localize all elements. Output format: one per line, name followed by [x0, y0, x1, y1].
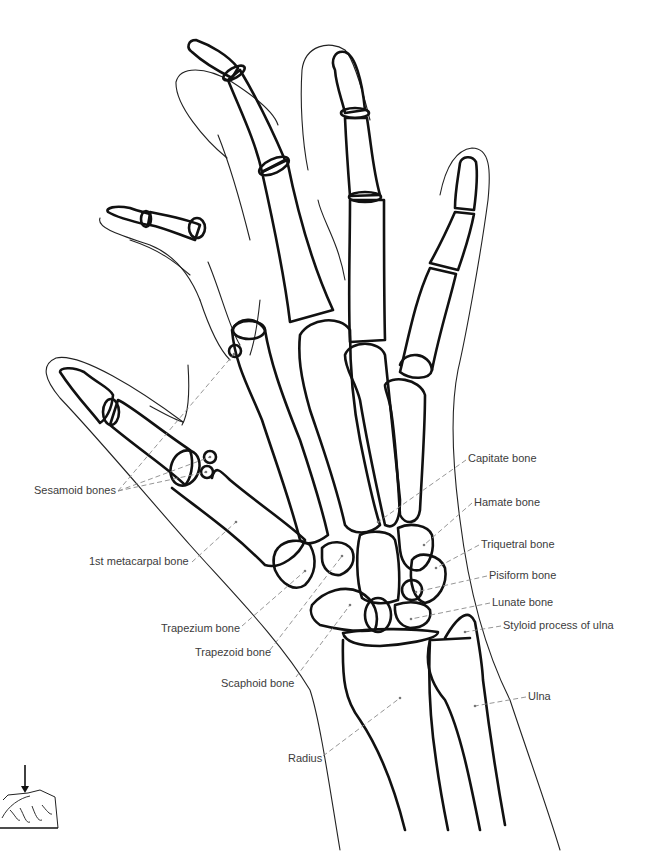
lunate-outline [395, 602, 430, 628]
label-scaphoid-bone: Scaphoid bone [221, 677, 294, 690]
label-ulna: Ulna [528, 690, 551, 703]
ring-finger-bones [400, 157, 477, 378]
hand-wrist-bone-diagram [0, 0, 652, 860]
label-trapezium-bone: Trapezium bone [161, 622, 240, 635]
label-first-metacarpal: 1st metacarpal bone [89, 555, 189, 568]
orientation-inset [0, 765, 58, 828]
trapezoid-outline [322, 542, 354, 575]
ulna-left-edge [428, 640, 480, 830]
metacarpals [232, 320, 432, 543]
label-radius: Radius [288, 752, 322, 765]
label-trapezoid-bone: Trapezoid bone [195, 646, 271, 659]
label-pisiform-bone: Pisiform bone [489, 569, 556, 582]
label-styloid-process-ulna: Styloid process of ulna [503, 619, 614, 632]
label-capitate-bone: Capitate bone [468, 452, 537, 465]
carpal-bones [274, 525, 446, 632]
hamate-outline [398, 525, 433, 570]
middle-finger-bones [333, 52, 385, 342]
radius-right-edge [429, 640, 448, 830]
capitate-outline [357, 532, 399, 603]
index-finger-bones [189, 40, 333, 322]
forearm-bones [343, 615, 505, 830]
label-triquetral-bone: Triquetral bone [481, 538, 555, 551]
radius-left-edge [343, 640, 405, 830]
label-sesamoid-bones: Sesamoid bones [34, 484, 116, 497]
label-hamate-bone: Hamate bone [474, 496, 540, 509]
label-lunate-bone: Lunate bone [492, 596, 553, 609]
radius-head [343, 629, 438, 646]
ulna-head [432, 638, 470, 640]
